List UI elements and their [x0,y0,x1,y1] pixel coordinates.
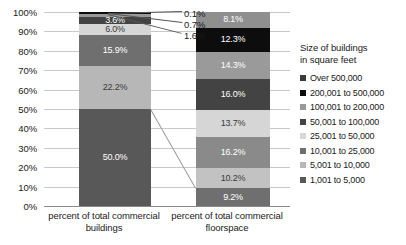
legend-item-label: 10,001 to 25,000 [310,146,374,156]
legend-swatch-icon [300,90,306,96]
bar-buildings-segment-label: 15.9% [103,46,128,55]
x-axis-label-buildings-line2: buildings [86,222,123,233]
x-axis-labels: percent of total commercial buildings pe… [44,210,290,242]
legend-title-line1: Size of buildings [300,42,367,53]
legend-item[interactable]: 100,001 to 200,000 [300,100,406,115]
x-axis-label-buildings: percent of total commercial buildings [44,210,164,234]
callout-label: 0.1% [184,8,205,19]
y-axis-tick: 90% [18,26,37,37]
y-axis: 100%90%80%70%60%50%40%30%20%10%0% [0,12,40,206]
legend-item[interactable]: 10,001 to 25,000 [300,144,406,159]
bar-floorspace-segment-label: 16.2% [221,148,246,157]
bar-floorspace-segment[interactable]: 16.2% [196,137,270,168]
y-axis-tick: 20% [18,162,37,173]
stacked-bar-chart: 100%90%80%70%60%50%40%30%20%10%0% 3.6%6.… [0,0,406,245]
y-axis-tick: 80% [18,45,37,56]
legend-swatch-icon [300,75,306,81]
legend-item[interactable]: 200,001 to 500,000 [300,86,406,101]
bar-floorspace-segment-label: 16.0% [221,90,246,99]
legend-item-label: 100,001 to 200,000 [310,102,384,112]
legend-item-label: 25,001 to 50,000 [310,131,374,141]
bar-floorspace-segment[interactable]: 10.2% [196,168,270,188]
bar-buildings-segment-label: 50.0% [103,153,128,162]
connector-line [150,109,196,189]
legend: Size of buildings in square feet Over 50… [300,42,406,187]
x-axis-label-buildings-line1: percent of total commercial [48,210,159,221]
legend-title-line2: in square feet [300,54,356,65]
bar-floorspace-segment-label: 14.3% [221,61,246,70]
callout-label: 0.7% [184,19,205,30]
x-axis-label-floorspace-line2: floorspace [206,222,249,233]
y-axis-tick: 50% [18,104,37,115]
thin-slice-callouts: 0.1%0.7%1.6% [168,8,238,42]
bar-buildings-segment[interactable]: 50.0% [79,109,151,206]
x-axis-label-floorspace-line1: percent of total commercial [171,210,282,221]
legend-item[interactable]: 1,001 to 5,000 [300,173,406,188]
legend-item-label: 50,001 to 100,000 [310,117,379,127]
legend-item-label: 5,001 to 10,000 [310,160,370,170]
legend-item[interactable]: Over 500,000 [300,71,406,86]
bar-floorspace-segment-label: 9.2% [223,193,243,202]
legend-title: Size of buildings in square feet [300,42,406,65]
legend-item[interactable]: 5,001 to 10,000 [300,158,406,173]
bar-floorspace-segment[interactable]: 14.3% [196,52,270,80]
y-axis-tick: 60% [18,84,37,95]
y-axis-tick: 10% [18,181,37,192]
legend-item[interactable]: 50,001 to 100,000 [300,115,406,130]
legend-items: Over 500,000200,001 to 500,000100,001 to… [300,71,406,187]
bar-floorspace-segment[interactable]: 9.2% [196,188,270,206]
legend-item-label: 1,001 to 5,000 [310,175,365,185]
bar-buildings-segment[interactable]: 15.9% [79,35,151,66]
y-axis-tick: 70% [18,65,37,76]
bar-buildings-segment[interactable]: 6.0% [79,24,151,36]
legend-item-label: 200,001 to 500,000 [310,88,384,98]
y-axis-tick: 100% [13,7,37,18]
y-axis-tick: 0% [23,201,37,212]
y-axis-tick: 30% [18,142,37,153]
legend-item-label: Over 500,000 [310,73,362,83]
bar-floorspace-segment-label: 10.2% [221,174,246,183]
legend-swatch-icon [300,119,306,125]
legend-swatch-icon [300,177,306,183]
bar-commercial-buildings[interactable]: 3.6%6.0%15.9%22.2%50.0% [79,12,151,206]
legend-swatch-icon [300,133,306,139]
x-axis-label-floorspace: percent of total commercial floorspace [164,210,290,234]
callout-label: 1.6% [184,30,205,41]
legend-swatch-icon [300,104,306,110]
legend-swatch-icon [300,148,306,154]
bar-buildings-segment-label: 6.0% [105,25,125,34]
legend-item[interactable]: 25,001 to 50,000 [300,129,406,144]
bar-floorspace-segment[interactable]: 16.0% [196,79,270,110]
bar-buildings-segment-label: 22.2% [103,83,128,92]
bar-floorspace-segment[interactable]: 13.7% [196,110,270,137]
bar-buildings-segment[interactable]: 22.2% [79,66,151,109]
legend-swatch-icon [300,162,306,168]
plot-area: 3.6%6.0%15.9%22.2%50.0% 8.1%12.3%14.3%16… [44,12,286,206]
y-axis-tick: 40% [18,123,37,134]
bar-floorspace-segment-label: 13.7% [221,119,246,128]
